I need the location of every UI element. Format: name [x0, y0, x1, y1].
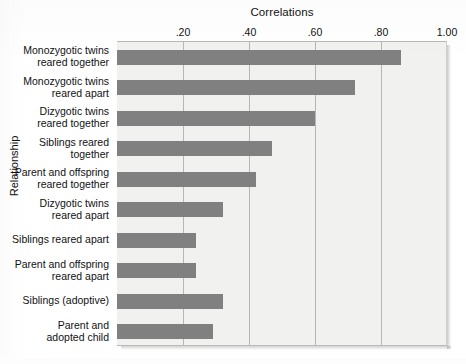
category-label-line: Dizygotic twins [0, 105, 109, 117]
category-label-line: Siblings (adoptive) [0, 294, 109, 306]
category-label-1: Monozygotic twinsreared apart [0, 75, 109, 99]
category-label-line: reared apart [0, 87, 109, 99]
category-label-line: Parent and offspring [0, 166, 109, 178]
category-label-line: Dizygotic twins [0, 197, 109, 209]
bar-5 [117, 202, 223, 217]
category-axis-labels: Monozygotic twinsreared togetherMonozygo… [0, 41, 113, 346]
category-label-line: reared apart [0, 209, 109, 221]
x-tick-label-4: 1.00 [437, 26, 457, 38]
bar-row [117, 263, 446, 278]
bar-row [117, 233, 446, 248]
x-tick-label-0: .20 [176, 26, 191, 38]
bar-6 [117, 233, 196, 248]
bar-row [117, 294, 446, 309]
bar-row [117, 141, 446, 156]
bar-row [117, 111, 446, 126]
bar-0 [117, 50, 401, 65]
category-label-line: Parent and offspring [0, 258, 109, 270]
category-label-line: Monozygotic twins [0, 75, 109, 87]
category-label-line: Parent and [0, 319, 109, 331]
bar-row [117, 50, 446, 65]
bar-4 [117, 172, 256, 187]
x-tick-label-2: .60 [308, 26, 323, 38]
bar-row [117, 172, 446, 187]
category-label-line: reared together [0, 178, 109, 190]
bar-7 [117, 263, 196, 278]
bar-row [117, 80, 446, 95]
bar-series [117, 42, 446, 345]
category-label-8: Siblings (adoptive) [0, 294, 109, 306]
category-label-3: Siblings rearedtogether [0, 136, 109, 160]
chart-title: Correlations [117, 6, 447, 18]
category-label-line: reared together [0, 56, 109, 68]
category-label-line: together [0, 148, 109, 160]
category-label-line: reared together [0, 117, 109, 129]
category-label-line: reared apart [0, 270, 109, 282]
plot-shadow-right [447, 45, 451, 349]
category-label-line: adopted child [0, 331, 109, 343]
page-bottom-edge [0, 358, 466, 364]
x-tick-label-1: .40 [242, 26, 257, 38]
bar-1 [117, 80, 355, 95]
bar-row [117, 324, 446, 339]
category-label-5: Dizygotic twinsreared apart [0, 197, 109, 221]
category-label-4: Parent and offspringreared together [0, 166, 109, 190]
bar-8 [117, 294, 223, 309]
chart-figure: Correlations .20.40.60.801.00 Relationsh… [0, 0, 466, 364]
category-label-2: Dizygotic twinsreared together [0, 105, 109, 129]
bar-row [117, 202, 446, 217]
bar-2 [117, 111, 315, 126]
category-label-9: Parent andadopted child [0, 319, 109, 343]
x-axis-tick-labels: .20.40.60.801.00 [0, 26, 466, 40]
x-tick-label-3: .80 [374, 26, 389, 38]
category-label-6: Siblings reared apart [0, 233, 109, 245]
category-label-line: Monozygotic twins [0, 44, 109, 56]
category-label-7: Parent and offspringreared apart [0, 258, 109, 282]
category-label-line: Siblings reared [0, 136, 109, 148]
plot-area [117, 41, 447, 346]
plot-shadow-bottom [121, 346, 451, 350]
bar-3 [117, 141, 272, 156]
bar-9 [117, 324, 213, 339]
category-label-line: Siblings reared apart [0, 233, 109, 245]
category-label-0: Monozygotic twinsreared together [0, 44, 109, 68]
